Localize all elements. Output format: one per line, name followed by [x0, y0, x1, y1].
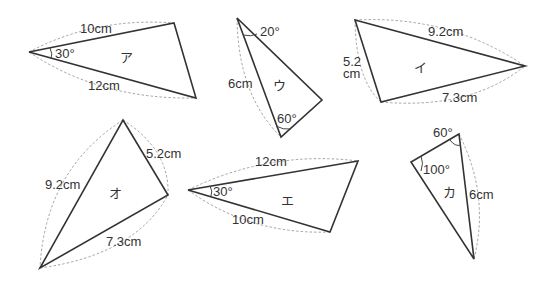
- triangle-outline: [40, 120, 168, 268]
- angle-label: 60°: [433, 125, 453, 140]
- side-label: 12cm: [88, 78, 120, 93]
- side-label: 6cm: [469, 187, 494, 202]
- angle-label: 30°: [213, 184, 233, 199]
- triangle-u: 20° 6cm ウ 60°: [228, 18, 322, 137]
- side-label: 7.3cm: [106, 234, 141, 249]
- triangle-e: 12cm 30° エ 10cm: [188, 154, 358, 232]
- triangle-name: ウ: [273, 78, 286, 93]
- side-label: 6cm: [228, 76, 253, 91]
- triangle-name: カ: [443, 185, 456, 200]
- side-label: 5.2cm: [146, 146, 181, 161]
- side-label: 9.2cm: [428, 24, 463, 39]
- triangle-a: 10cm 30° 12cm ア: [29, 21, 196, 98]
- angle-label: 30°: [55, 46, 75, 61]
- side-label: 12cm: [255, 154, 287, 169]
- side-label: 7.3cm: [442, 90, 477, 105]
- triangle-name: オ: [109, 186, 122, 201]
- triangle-i: 9.2cm 5.2 cm イ 7.3cm: [343, 20, 525, 105]
- side-label: 10cm: [80, 21, 112, 36]
- angle-arc: [210, 186, 212, 196]
- triangle-name: エ: [281, 193, 294, 208]
- triangles-diagram: 10cm 30° 12cm ア 20° 6cm ウ 60° 9.2cm 5.2 …: [0, 0, 554, 284]
- angle-label: 20°: [260, 24, 280, 39]
- angle-label: 100°: [423, 162, 450, 177]
- triangle-name: ア: [120, 50, 133, 65]
- angle-label: 60°: [277, 111, 297, 126]
- side-label: 10cm: [232, 212, 264, 227]
- side-label: cm: [343, 66, 360, 81]
- triangle-ka: 60° 100° カ 6cm: [411, 125, 494, 259]
- triangle-name: イ: [414, 60, 427, 75]
- side-label: 9.2cm: [45, 177, 80, 192]
- triangle-o: 5.2cm 9.2cm オ 7.3cm: [40, 120, 181, 268]
